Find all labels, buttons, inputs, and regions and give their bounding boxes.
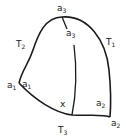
inner-a3-label: a3 xyxy=(66,28,76,39)
inner-a2-label: a2 xyxy=(96,98,106,109)
inner-a1-label: a1 xyxy=(22,79,32,90)
interior-arc xyxy=(72,45,76,115)
vertex-a2-label: a2 xyxy=(111,118,121,129)
point-x-label: x xyxy=(60,99,66,109)
side-T2-curve xyxy=(19,17,62,83)
vertex-a3-label: a3 xyxy=(57,3,67,14)
side-T2-label: T2 xyxy=(15,39,26,50)
side-T1-label: T1 xyxy=(105,37,116,48)
vertex-a1-label: a1 xyxy=(7,80,17,91)
curvilinear-triangle-diagram: a3 a3 T2 T1 a1 a1 x a2 a2 T3 xyxy=(0,0,126,139)
side-T3-label: T3 xyxy=(57,125,68,136)
